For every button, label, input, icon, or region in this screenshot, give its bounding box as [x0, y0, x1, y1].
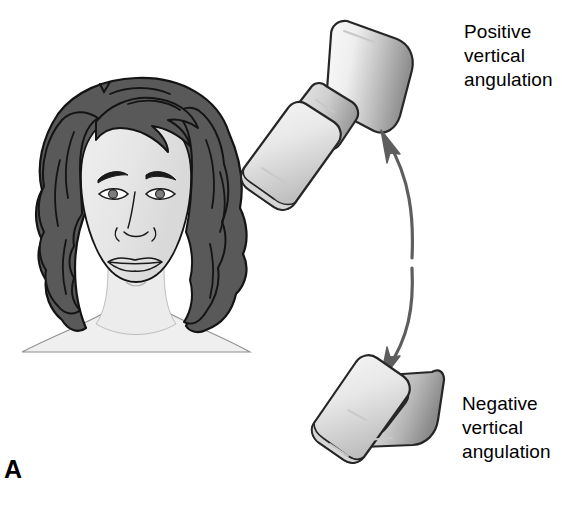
tubehead-lower-illustration [312, 355, 444, 463]
caption-negative-vertical-angulation: Negative vertical angulation [462, 392, 551, 464]
tubehead-upper-illustration [241, 21, 413, 210]
iris-left [109, 190, 118, 199]
iris-right [156, 190, 165, 199]
rotation-arrow-upper-shaft [388, 142, 412, 258]
patient-head-illustration [22, 78, 250, 352]
rotation-arrow [388, 142, 412, 368]
panel-label: A [4, 455, 22, 484]
figure-panel-a: Positive vertical angulation Negative ve… [0, 0, 562, 505]
caption-positive-vertical-angulation: Positive vertical angulation [464, 20, 553, 92]
rotation-arrow-lower-shaft [388, 268, 412, 368]
